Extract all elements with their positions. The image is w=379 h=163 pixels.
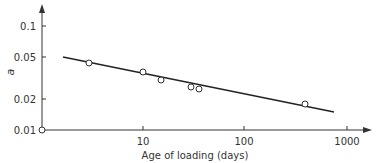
y-tick-label: 0.02 [14,94,36,105]
x-axis [42,126,372,133]
data-point [188,84,194,90]
y-axis [39,4,46,130]
y-tick-label: 0.01 [14,125,36,136]
data-point [302,101,308,107]
y-axis-arrow-icon [39,4,45,13]
x-tick-label: 10 [137,136,150,147]
x-axis-arrow-icon [363,127,372,133]
data-point [196,86,202,92]
data-point [140,69,146,75]
origin-marker [39,127,45,133]
x-tick-label: 100 [234,136,253,147]
chart: 0.1 0.05 0.02 0.01 10 100 1000 Age of lo… [0,0,379,163]
x-axis-label: Age of loading (days) [142,150,249,161]
y-axis-label: a [4,68,17,75]
fit-line [63,57,334,112]
data-point [158,77,164,83]
x-tick-label: 1000 [334,136,359,147]
data-points [39,60,308,133]
y-tick-label: 0.05 [14,52,36,63]
data-point [86,60,92,66]
y-tick-label: 0.1 [20,21,36,32]
